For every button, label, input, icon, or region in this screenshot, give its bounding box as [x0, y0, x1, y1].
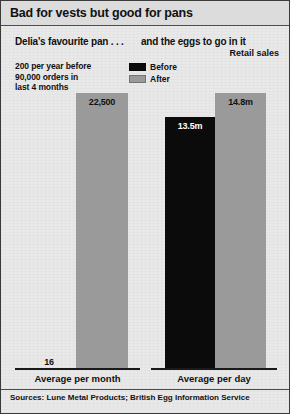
source-note: Sources: Lune Metal Products; British Eg…: [10, 393, 250, 402]
axis-line-eggs: [151, 368, 277, 370]
panel-subhead-pans: Delia's favourite pan . . .: [15, 36, 124, 47]
axis-label-average-per-month: Average per month: [15, 373, 140, 384]
legend-swatch-after: [129, 75, 146, 83]
bar-eggs-after: 14.8m: [215, 93, 266, 370]
legend-item-before: Before: [129, 61, 177, 72]
bars-pans: 16 22,500: [15, 93, 140, 370]
bar-eggs-before: 13.5m: [165, 117, 215, 370]
page-title: Bad for vests but good for pans: [10, 6, 193, 20]
bars-eggs: 13.5m 14.8m: [151, 93, 277, 370]
annotation-line-2: 90,000 orders in: [15, 72, 91, 83]
bar-value-eggs-before: 13.5m: [165, 121, 215, 131]
bar-group-pans: 16 22,500: [15, 93, 140, 370]
annotation-line-1: 200 per year before: [15, 61, 91, 72]
bar-group-eggs: 13.5m 14.8m: [151, 93, 277, 370]
annotation-note: 200 per year before 90,000 orders in las…: [15, 61, 91, 93]
chart-figure: Bad for vests but good for pans Delia's …: [0, 0, 290, 414]
annotation-line-3: last 4 months: [15, 82, 91, 93]
legend-label-before: Before: [150, 62, 177, 72]
footer-divider: [1, 389, 289, 390]
axis-label-average-per-day: Average per day: [151, 373, 277, 384]
panel-subhead-eggs: and the eggs to go in it: [141, 36, 246, 47]
legend-swatch-before: [129, 63, 146, 71]
plot-area: 16 22,500 13.5m 14.8m: [1, 93, 290, 370]
legend-item-after: After: [129, 73, 177, 84]
bar-value-eggs-after: 14.8m: [215, 97, 266, 107]
bar-pans-after: 22,500: [76, 93, 128, 370]
legend: Before After: [129, 61, 177, 85]
unit-label-retail-sales: Retail sales: [229, 48, 279, 58]
bar-value-pans-before: 16: [23, 357, 75, 367]
axis-line-pans: [15, 368, 140, 370]
bar-value-pans-after: 22,500: [76, 97, 128, 107]
legend-label-after: After: [150, 74, 170, 84]
